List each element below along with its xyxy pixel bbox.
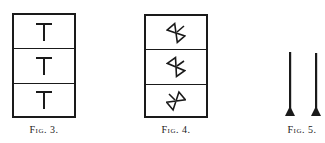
figure-3-cell bbox=[14, 49, 74, 84]
figure-5: Fig. 5. bbox=[230, 0, 325, 143]
figure-4-cell bbox=[146, 50, 206, 85]
figure-4-caption: Fig. 4. bbox=[144, 124, 208, 135]
pin-icon bbox=[284, 52, 296, 118]
hourglass-glyph-icon bbox=[166, 22, 186, 44]
t-glyph-icon bbox=[34, 55, 54, 77]
t-glyph-icon bbox=[34, 21, 54, 43]
figure-3: Fig. 3. bbox=[0, 0, 120, 143]
t-glyph-icon bbox=[34, 89, 54, 111]
figure-4-box bbox=[144, 14, 208, 118]
figure-3-caption: Fig. 3. bbox=[12, 124, 76, 135]
figure-3-cell bbox=[14, 84, 74, 116]
figure-3-cell bbox=[14, 15, 74, 49]
figure-3-box bbox=[12, 13, 76, 118]
hourglass-glyph-icon bbox=[166, 90, 186, 112]
pin-icon bbox=[310, 53, 322, 118]
figure-4: Fig. 4. bbox=[120, 0, 230, 143]
hourglass-glyph-icon bbox=[166, 56, 186, 78]
figure-5-caption: Fig. 5. bbox=[280, 124, 324, 135]
figure-4-cell bbox=[146, 16, 206, 50]
figure-4-cell bbox=[146, 85, 206, 116]
